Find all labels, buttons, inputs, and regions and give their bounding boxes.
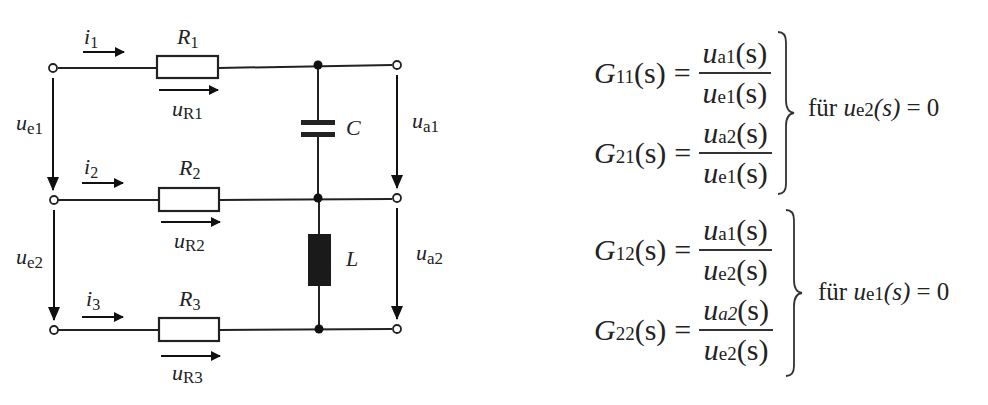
brace-top	[776, 30, 802, 196]
equation-g11: G11(s) = ua1(s) ue1(s)	[594, 36, 771, 110]
condition-ue1-zero: für ue1(s) = 0	[818, 278, 949, 306]
fraction: ua2(s) ue2(s)	[699, 293, 773, 367]
equation-g22: G22(s) = ua2(s) ue2(s)	[594, 293, 773, 367]
brace-bottom	[784, 208, 810, 378]
fraction: ua1(s) ue1(s)	[699, 36, 772, 110]
equation-g21: G21(s) = ua2(s) ue1(s)	[594, 116, 772, 190]
condition-ue2-zero: für ue2(s) = 0	[808, 94, 939, 122]
transfer-functions: G11(s) = ua1(s) ue1(s) G21(s) = ua2(s) u…	[0, 0, 988, 405]
fraction: ua1(s) ue2(s)	[699, 213, 772, 287]
equation-g12: G12(s) = ua1(s) ue2(s)	[594, 213, 772, 287]
fraction: ua2(s) ue1(s)	[699, 116, 772, 190]
